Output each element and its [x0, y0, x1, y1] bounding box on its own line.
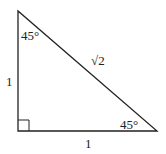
horizontal-leg-label: 1 [85, 137, 92, 150]
triangle-figure [0, 0, 166, 154]
top-angle-label: 45° [21, 29, 39, 42]
bottom-right-angle-label: 45° [120, 118, 138, 131]
hypotenuse-label: √2 [91, 54, 105, 67]
right-angle-marker [18, 120, 29, 131]
vertical-leg-label: 1 [6, 75, 13, 88]
